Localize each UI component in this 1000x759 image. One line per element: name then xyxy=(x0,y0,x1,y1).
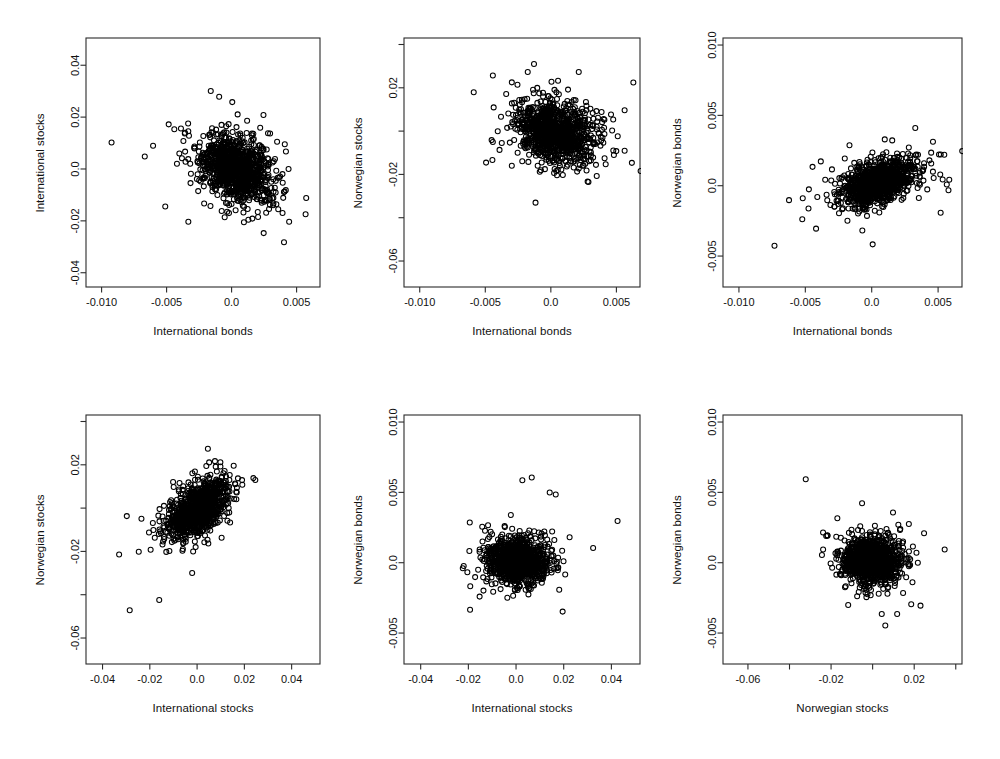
x-axis-title-6: Norwegian stocks xyxy=(723,702,962,714)
y-axis-title-6: Norwegian bonds xyxy=(671,495,683,585)
x-tick-label: -0.010 xyxy=(404,296,435,308)
plot-frame-5 xyxy=(404,415,640,664)
y-axis-title-4: Norwegian stocks xyxy=(34,494,46,585)
plot-frame-3 xyxy=(723,38,962,287)
y-tick-label: 0.0 xyxy=(706,555,718,570)
y-axis-title-3: Norwegian bonds xyxy=(671,118,683,208)
y-tick-label: -0.04 xyxy=(69,260,81,285)
y-tick-label: -0.06 xyxy=(387,248,399,273)
y-tick-label: -0.02 xyxy=(69,539,81,564)
y-axis-title-5: Norwegian bonds xyxy=(352,495,364,585)
scatter-panel-5: -0.04-0.020.00.020.04-0.0050.00.0050.010 xyxy=(0,0,1000,759)
y-tick-label: -0.02 xyxy=(69,208,81,233)
scatter-plot-area-1: -0.010-0.0050.00.005-0.04-0.020.00.020.0… xyxy=(0,0,1000,759)
scatterplot-matrix: -0.010-0.0050.00.005-0.04-0.020.00.020.0… xyxy=(0,0,1000,759)
x-tick-label: 0.04 xyxy=(281,673,302,685)
scatter-panel-4: -0.04-0.020.00.020.04-0.06-0.020.02 xyxy=(0,0,1000,759)
x-tick-label: -0.02 xyxy=(819,673,844,685)
x-tick-label: 0.005 xyxy=(603,296,631,308)
x-tick-label: 0.02 xyxy=(903,673,924,685)
y-tick-label: 0.0 xyxy=(69,161,81,176)
x-tick-label: -0.04 xyxy=(90,673,115,685)
y-tick-label: 0.005 xyxy=(706,479,718,507)
x-tick-label: -0.02 xyxy=(456,673,481,685)
plot-frame-6 xyxy=(723,415,962,664)
x-tick-label: 0.02 xyxy=(553,673,574,685)
data-points-2 xyxy=(471,61,643,205)
x-tick-label: 0.0 xyxy=(864,296,879,308)
y-tick-label: 0.005 xyxy=(706,102,718,130)
x-axis-title-5: International stocks xyxy=(404,702,640,714)
x-tick-label: -0.04 xyxy=(408,673,433,685)
y-tick-label: -0.005 xyxy=(706,240,718,271)
x-tick-label: -0.005 xyxy=(470,296,501,308)
x-tick-label: 0.02 xyxy=(234,673,255,685)
x-tick-label: -0.005 xyxy=(790,296,821,308)
x-axis-title-2: International bonds xyxy=(404,325,640,337)
y-tick-label: 0.0 xyxy=(706,178,718,193)
x-tick-label: 0.0 xyxy=(224,296,239,308)
y-tick-label: 0.02 xyxy=(69,106,81,127)
data-points-1 xyxy=(109,88,309,244)
x-tick-label: 0.0 xyxy=(189,673,204,685)
scatter-plot-area-6: -0.06-0.020.02-0.0050.00.0050.010 xyxy=(0,0,1000,759)
data-points-4 xyxy=(117,446,258,612)
scatter-plot-area-3: -0.010-0.0050.00.005-0.0050.00.0050.010 xyxy=(0,0,1000,759)
y-tick-label: -0.02 xyxy=(387,162,399,187)
plot-frame-1 xyxy=(86,38,320,287)
scatter-panel-3: -0.010-0.0050.00.005-0.0050.00.0050.010 xyxy=(0,0,1000,759)
y-axis-title-1: International stocks xyxy=(34,113,46,212)
y-tick-label: 0.0 xyxy=(387,555,399,570)
x-tick-label: -0.06 xyxy=(735,673,760,685)
x-axis-title-1: International bonds xyxy=(86,325,320,337)
x-tick-label: 0.005 xyxy=(283,296,311,308)
y-axis-title-2: Norwegian stocks xyxy=(352,117,364,208)
y-tick-label: 0.02 xyxy=(69,454,81,475)
data-points-3 xyxy=(772,125,965,248)
scatter-plot-area-4: -0.04-0.020.00.020.04-0.06-0.020.02 xyxy=(0,0,1000,759)
y-tick-label: 0.010 xyxy=(706,408,718,436)
x-tick-label: -0.005 xyxy=(151,296,182,308)
y-tick-label: -0.005 xyxy=(706,617,718,648)
x-tick-label: -0.010 xyxy=(86,296,117,308)
x-tick-label: 0.0 xyxy=(543,296,558,308)
x-tick-label: -0.02 xyxy=(137,673,162,685)
scatter-panel-1: -0.010-0.0050.00.005-0.04-0.020.00.020.0… xyxy=(0,0,1000,759)
x-tick-label: 0.0 xyxy=(508,673,523,685)
scatter-plot-area-2: -0.010-0.0050.00.005-0.06-0.020.02 xyxy=(0,0,1000,759)
y-tick-label: -0.06 xyxy=(69,625,81,650)
y-tick-label: -0.005 xyxy=(387,617,399,648)
x-axis-title-4: International stocks xyxy=(86,702,320,714)
x-tick-label: -0.010 xyxy=(723,296,754,308)
scatter-plot-area-5: -0.04-0.020.00.020.04-0.0050.00.0050.010 xyxy=(0,0,1000,759)
x-tick-label: 0.005 xyxy=(924,296,952,308)
plot-frame-2 xyxy=(404,38,640,287)
scatter-panel-6: -0.06-0.020.02-0.0050.00.0050.010 xyxy=(0,0,1000,759)
data-points-6 xyxy=(803,477,947,628)
y-tick-label: 0.010 xyxy=(387,408,399,436)
y-tick-label: 0.010 xyxy=(706,31,718,59)
y-tick-label: 0.04 xyxy=(69,55,81,76)
plot-frame-4 xyxy=(86,415,320,664)
x-axis-title-3: International bonds xyxy=(723,325,962,337)
y-tick-label: 0.005 xyxy=(387,479,399,507)
data-points-5 xyxy=(460,475,620,614)
y-tick-label: 0.02 xyxy=(387,77,399,98)
x-tick-label: 0.04 xyxy=(601,673,622,685)
scatter-panel-2: -0.010-0.0050.00.005-0.06-0.020.02 xyxy=(0,0,1000,759)
